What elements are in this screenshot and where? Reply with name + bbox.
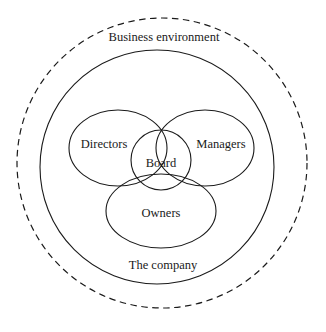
governance-diagram: Business environment The company Directo…: [0, 0, 326, 332]
diagram-canvas: Business environment The company Directo…: [0, 0, 326, 332]
business-environment-label: Business environment: [109, 30, 220, 44]
the-company-label: The company: [129, 258, 198, 272]
directors-label: Directors: [81, 137, 128, 151]
managers-label: Managers: [196, 137, 245, 151]
owners-label: Owners: [142, 206, 181, 220]
board-label: Board: [146, 156, 177, 170]
